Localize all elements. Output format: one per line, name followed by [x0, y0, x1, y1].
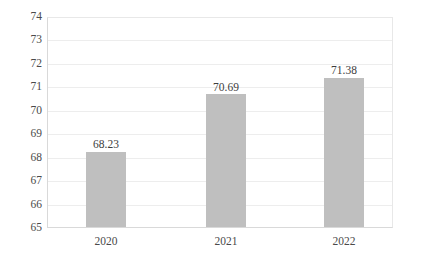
plot-area	[47, 17, 393, 228]
bar-value-label-2022: 71.38	[309, 65, 379, 77]
y-axis-tick-label: 68	[12, 152, 42, 164]
bar-value-label-2021: 70.69	[191, 82, 261, 94]
y-axis-tick-label: 69	[12, 128, 42, 140]
y-axis-tick-label: 70	[12, 105, 42, 117]
bar-2022[interactable]	[324, 78, 364, 227]
y-axis-tick-label: 74	[12, 11, 42, 23]
x-axis-tick-label-2020: 2020	[66, 236, 146, 248]
y-axis-tick-label: 66	[12, 199, 42, 211]
x-axis-tick-label-2021: 2021	[186, 236, 266, 248]
y-axis-tick-label: 67	[12, 175, 42, 187]
y-axis-tick-label: 65	[12, 222, 42, 234]
y-axis-tick-label: 71	[12, 82, 42, 94]
bar-value-label-2020: 68.23	[71, 139, 141, 151]
bar-chart: 74 73 72 71 70 69 68 67 66 65 68.23 70.6…	[0, 0, 421, 267]
x-axis-tick-label-2022: 2022	[304, 236, 384, 248]
bar-2021[interactable]	[206, 94, 246, 227]
y-axis-tick-label: 73	[12, 35, 42, 47]
y-axis-tick-label: 72	[12, 58, 42, 70]
bar-2020[interactable]	[86, 152, 126, 227]
gridline	[48, 40, 392, 41]
